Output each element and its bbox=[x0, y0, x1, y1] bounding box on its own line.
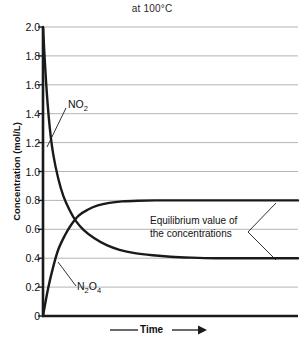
plot-area bbox=[0, 0, 304, 361]
x-axis-arrowhead-icon bbox=[198, 326, 207, 335]
annotation-equilibrium-line1: Equilibrium value of bbox=[150, 215, 237, 228]
annotation-equilibrium-line2: the concentrations bbox=[150, 228, 237, 241]
series-label-n2o4: N2O4 bbox=[77, 280, 101, 295]
annotation-equilibrium: Equilibrium value of the concentrations bbox=[150, 215, 237, 240]
x-axis-title: Time bbox=[140, 324, 163, 335]
leader-line-n2o4 bbox=[58, 262, 76, 286]
leader-line-equilibrium-upper bbox=[248, 203, 276, 232]
leader-line-equilibrium-lower bbox=[248, 232, 276, 260]
chart-container: at 100°C Concentration (mol/L) 2.0 1.8 1… bbox=[0, 0, 304, 361]
gridlines bbox=[43, 27, 298, 287]
series-label-no2: NO2 bbox=[68, 98, 88, 113]
